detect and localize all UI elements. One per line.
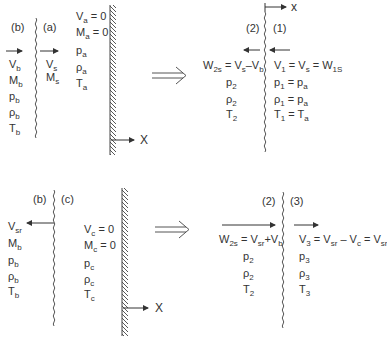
region-b-label: (b) [11,21,24,33]
var-t1: T1 = Ta [274,108,309,125]
var-pa: pa [76,44,87,61]
var-tb: Tb [9,122,20,139]
var-w2s-bottom: W2s = Vsr+Vb [219,233,283,250]
axis-label-x-top-right: x [291,1,297,13]
shock-wave-top-left [35,18,37,138]
var-t3: T3 [299,283,310,300]
region-c-label: (c) [61,193,74,205]
axis-label-x-top: X [140,134,148,146]
var-pc: pc [84,257,94,274]
implies-arrow-top [152,67,186,84]
var-vsr: Vsr [8,220,22,237]
var-t2-bottom: T2 [243,283,254,300]
var-v3: V3 = Vsr – Vc = Vsr [299,233,387,250]
reflecting-wall-bottom [122,188,128,336]
var-pb: pb [9,90,20,107]
var-pb-bottom: pb [8,254,19,271]
shock-wave-bottom-left [53,190,55,326]
shock-wave-top-right [264,12,266,152]
var-p2: p2 [226,76,237,93]
region-b-label-bottom: (b) [33,193,46,205]
implies-arrow-bottom [155,221,189,238]
var-tc: Tc [84,288,95,305]
var-rho3: ρ3 [299,267,310,284]
var-p1: p1 = pa [274,76,308,93]
region-1-label: (1) [273,22,286,34]
region-3-label: (3) [290,195,303,207]
var-mc: Mc = 0 [84,239,116,256]
region-2-label-bottom: (2) [262,195,275,207]
var-ms: Ms [46,71,59,88]
reflecting-wall-top [110,5,116,155]
var-rhoa: ρa [76,61,87,78]
var-v1: V1 = Vs = W1S [274,59,342,76]
var-ta: Ta [76,77,87,94]
region-a-label: (a) [43,21,56,33]
var-t2: T2 [226,108,237,125]
region-2-label: (2) [246,22,259,34]
var-vb: Vb [9,58,21,75]
var-va: Va = 0 [76,10,106,27]
var-mb-bottom: Mb [8,237,22,254]
var-ma: Ma = 0 [76,26,108,43]
var-p2-bottom: p2 [243,250,254,267]
shock-wave-bottom-right [282,192,284,328]
var-rhob: ρb [9,106,20,123]
var-rho2-bottom: ρ2 [243,267,254,284]
var-w2s: W2s = Vs–Vb [203,59,264,76]
var-vc: Vc = 0 [84,223,114,240]
axis-label-x-bottom: X [155,302,163,314]
var-p3: p3 [299,250,310,267]
var-mb: Mb [9,74,23,91]
var-tb-bottom: Tb [8,285,19,302]
